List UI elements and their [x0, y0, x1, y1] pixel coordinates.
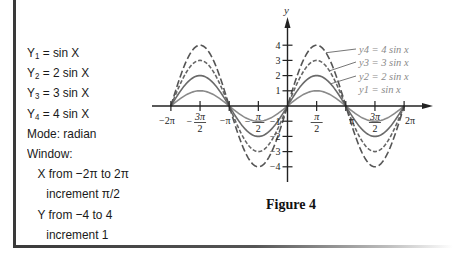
- x-tick-label: −π: [220, 115, 231, 126]
- x-tick-sign: −: [245, 116, 251, 127]
- x-tick-numerator: π: [314, 111, 320, 122]
- y-tick-label: −1: [270, 116, 281, 127]
- x-tick-sign: −: [186, 116, 192, 127]
- y-tick-label: 4: [276, 40, 281, 51]
- y-tick-label: 2: [276, 70, 281, 81]
- y-tick-label: 1: [276, 85, 281, 96]
- y-tick-label: 3: [276, 55, 281, 66]
- y-tick-label: −3: [270, 146, 281, 157]
- x-tick-label: π: [349, 115, 354, 126]
- sine-graph: y−2π−3π2−π−π2π2π3π22π−4−3−2−11234y4 = 4 …: [0, 0, 463, 255]
- x-tick-denominator: 2: [314, 123, 319, 134]
- x-axis-arrow-icon: [422, 103, 433, 109]
- x-tick-label: 2π: [405, 115, 415, 126]
- x-tick-denominator: 2: [198, 123, 203, 134]
- x-tick-denominator: 2: [372, 123, 377, 134]
- annotation-y3: y3 = 3 sin x: [358, 57, 409, 68]
- y-axis-arrow-icon: [285, 17, 291, 28]
- y-axis-label: y: [283, 4, 289, 16]
- x-tick-numerator: 3π: [194, 111, 206, 122]
- annotation-leader-line: [326, 49, 356, 53]
- annotation-y4: y4 = 4 sin x: [358, 44, 409, 55]
- x-tick-numerator: 3π: [369, 111, 381, 122]
- y-tick-label: −4: [270, 161, 281, 172]
- figure-caption: Figure 4: [266, 197, 316, 213]
- annotation-y1: y1 = sin x: [358, 84, 401, 95]
- x-tick-denominator: 2: [256, 123, 261, 134]
- x-tick-label: −2π: [159, 115, 175, 126]
- y-tick-label: −2: [270, 131, 281, 142]
- annotation-y2: y2 = 2 sin x: [358, 71, 409, 82]
